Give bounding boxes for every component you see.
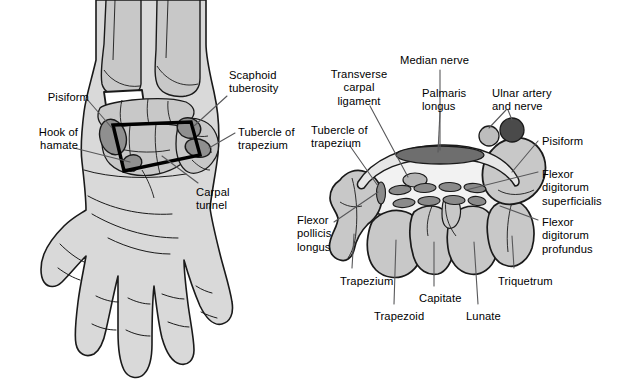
- tendon-pro-2: [418, 196, 440, 206]
- label-tubercle-of-trapezium-2: Tubercle of trapezium: [311, 124, 368, 151]
- figure-artwork: [0, 0, 626, 386]
- ulnar-artery-circle: [479, 126, 499, 146]
- label-median-nerve: Median nerve: [400, 54, 469, 67]
- tendon-sup-3: [439, 182, 461, 192]
- label-lunate: Lunate: [466, 310, 501, 323]
- carpal-tunnel-figure: Pisiform Hook of hamate Scaphoid tuberos…: [0, 0, 626, 386]
- label-hook-of-hamate: Hook of hamate: [0, 126, 78, 153]
- label-flexor-pollicis-longus: Flexor pollicis longus: [297, 214, 331, 254]
- label-transverse-carpal-ligament: Transverse carpal ligament: [321, 68, 397, 108]
- radius-bone: [101, 0, 141, 96]
- label-trapezoid: Trapezoid: [374, 310, 424, 323]
- label-carpal-tunnel: Carpal tunnel: [196, 186, 230, 213]
- label-ulnar-artery-and-nerve: Ulnar artery and nerve: [492, 87, 552, 114]
- label-trapezium: Trapezium: [340, 275, 393, 288]
- label-capitate: Capitate: [419, 292, 461, 305]
- label-pisiform: Pisiform: [0, 91, 89, 104]
- label-triquetrum: Triquetrum: [498, 275, 553, 288]
- label-tubercle-of-trapezium: Tubercle of trapezium: [238, 126, 295, 153]
- label-pisiform-2: Pisiform: [542, 135, 583, 148]
- label-scaphoid-tuberosity: Scaphoid tuberosity: [229, 69, 279, 96]
- ulnar-nerve-circle: [500, 118, 524, 142]
- ulna-bone: [155, 0, 200, 97]
- label-flexor-digitorum-profundus: Flexor digitorum profundus: [542, 216, 593, 256]
- label-palmaris-longus: Palmaris longus: [422, 87, 466, 114]
- label-flexor-digitorum-superficialis: Flexor digitorum superficialis: [542, 168, 602, 208]
